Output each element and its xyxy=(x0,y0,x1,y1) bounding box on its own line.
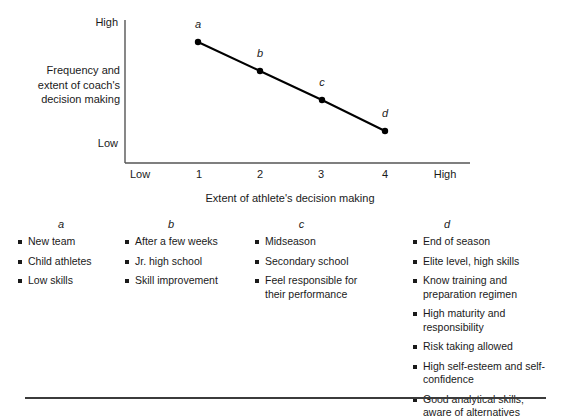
square-bullet-icon xyxy=(125,240,129,244)
list-item: Know training and preparation regimen xyxy=(413,274,553,301)
list-item-text: High self-esteem and self-confidence xyxy=(423,360,545,386)
square-bullet-icon xyxy=(413,312,417,316)
square-bullet-icon xyxy=(413,240,417,244)
square-bullet-icon xyxy=(255,260,259,264)
list-item: Child athletes xyxy=(18,255,118,269)
list-item-text: Risk taking allowed xyxy=(423,340,513,352)
square-bullet-icon xyxy=(255,279,259,283)
list-item-text: New team xyxy=(28,235,75,247)
bottom-divider xyxy=(25,397,546,399)
list-item: New team xyxy=(18,235,118,249)
list-item-text: Elite level, high skills xyxy=(423,255,519,267)
legend-column-d: d End of season Elite level, high skills… xyxy=(413,218,553,417)
square-bullet-icon xyxy=(18,240,22,244)
list-item-text: Child athletes xyxy=(28,255,92,267)
legend-column-b: b After a few weeks Jr. high school Skil… xyxy=(125,218,243,294)
list-item: Midseason xyxy=(255,235,380,249)
legend-column-a-list: New team Child athletes Low skills xyxy=(18,235,118,288)
legend-column-b-list: After a few weeks Jr. high school Skill … xyxy=(125,235,243,288)
data-point-c xyxy=(319,97,325,103)
list-item-text: Skill improvement xyxy=(135,274,218,286)
y-axis-title-line-3: decision making xyxy=(20,92,120,107)
data-point-a xyxy=(195,39,201,45)
data-point-d xyxy=(382,128,388,134)
point-annotation-b: b xyxy=(252,47,268,59)
square-bullet-icon xyxy=(18,260,22,264)
point-annotation-d: d xyxy=(377,107,393,119)
legend-column-c-list: Midseason Secondary school Feel responsi… xyxy=(255,235,380,301)
legend-column-c-header: c xyxy=(255,218,380,230)
list-item: End of season xyxy=(413,235,553,249)
list-item-text: Jr. high school xyxy=(135,255,202,267)
list-item-text: Secondary school xyxy=(265,255,348,267)
square-bullet-icon xyxy=(413,345,417,349)
list-item-text: End of season xyxy=(423,235,490,247)
list-item-text: After a few weeks xyxy=(135,235,218,247)
legend-column-c: c Midseason Secondary school Feel respon… xyxy=(255,218,380,307)
list-item: Skill improvement xyxy=(125,274,243,288)
square-bullet-icon xyxy=(18,279,22,283)
x-axis-tick-2: 2 xyxy=(241,168,279,181)
legend-column-d-list: End of season Elite level, high skills K… xyxy=(413,235,553,417)
list-item: Jr. high school xyxy=(125,255,243,269)
y-axis-title-line-1: Frequency and xyxy=(20,63,120,78)
y-axis-low-label: Low xyxy=(60,137,118,150)
list-item-text: Feel responsible for their performance xyxy=(265,274,357,300)
square-bullet-icon xyxy=(125,279,129,283)
point-annotation-a: a xyxy=(190,18,206,30)
data-point-b xyxy=(257,68,263,74)
x-axis-low-label: Low xyxy=(120,168,160,181)
legend-column-a: a New team Child athletes Low skills xyxy=(18,218,118,294)
list-item-text: High maturity and responsibility xyxy=(423,307,505,333)
x-axis-tick-3: 3 xyxy=(302,168,340,181)
list-item: Feel responsible for their performance xyxy=(255,274,380,301)
square-bullet-icon xyxy=(255,240,259,244)
list-item: Elite level, high skills xyxy=(413,255,553,269)
point-annotation-c: c xyxy=(314,76,330,88)
data-line-series-1 xyxy=(198,42,385,131)
square-bullet-icon xyxy=(125,260,129,264)
y-axis-title-line-2: extent of coach's xyxy=(20,78,120,93)
list-item: High maturity and responsibility xyxy=(413,307,553,334)
list-item: Low skills xyxy=(18,274,118,288)
legend-column-d-header: d xyxy=(413,218,553,230)
figure-container: High Low Frequency and extent of coach's… xyxy=(0,0,562,417)
y-axis-title: Frequency and extent of coach's decision… xyxy=(20,63,120,107)
square-bullet-icon xyxy=(413,365,417,369)
list-item: Risk taking allowed xyxy=(413,340,553,354)
square-bullet-icon xyxy=(413,279,417,283)
legend-column-b-header: b xyxy=(125,218,243,230)
x-axis-high-label: High xyxy=(424,168,466,181)
list-item: Secondary school xyxy=(255,255,380,269)
list-item-text: Midseason xyxy=(265,235,316,247)
line-chart-plot xyxy=(0,0,562,215)
y-axis-high-label: High xyxy=(60,16,118,29)
list-item: High self-esteem and self-confidence xyxy=(413,360,553,387)
x-axis-title: Extent of athlete's decision making xyxy=(150,192,430,204)
list-item-text: Know training and preparation regimen xyxy=(423,274,517,300)
list-item: After a few weeks xyxy=(125,235,243,249)
x-axis-tick-4: 4 xyxy=(366,168,404,181)
list-item-text: Low skills xyxy=(28,274,73,286)
square-bullet-icon xyxy=(413,260,417,264)
x-axis-tick-1: 1 xyxy=(180,168,218,181)
legend-column-a-header: a xyxy=(18,218,118,230)
